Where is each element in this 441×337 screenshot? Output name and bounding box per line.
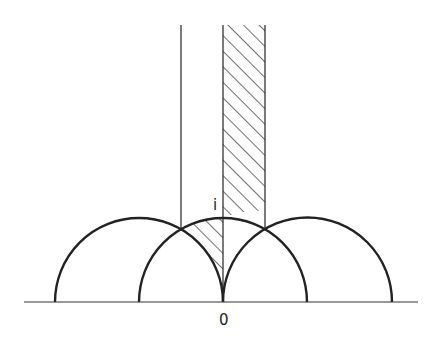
label-i: i (213, 196, 217, 214)
diagram-canvas (0, 0, 441, 337)
hatched-lower-region (181, 210, 223, 305)
label-origin: 0 (219, 311, 229, 329)
hatched-strip (223, 25, 265, 225)
semicircle-right (223, 218, 392, 302)
